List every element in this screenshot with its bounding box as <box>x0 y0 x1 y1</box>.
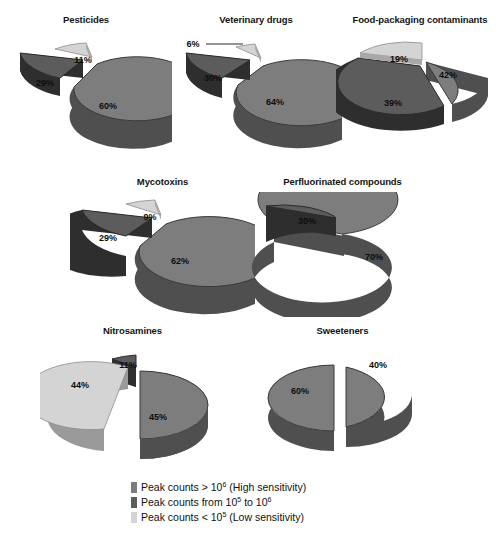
chart-title-sweeteners: Sweeteners <box>250 325 435 336</box>
slice-label-60: 60% <box>99 101 117 111</box>
pie-stage-sweeteners <box>250 341 435 461</box>
pie-svg-perfluorinated <box>250 192 435 317</box>
slice-label-40: 40% <box>369 360 387 370</box>
pie-stage-nitrosamines <box>40 341 225 461</box>
legend-swatch-low-sensitivity <box>131 512 137 523</box>
slice-label-29: 29% <box>99 233 117 243</box>
chart-title-perfluorinated-compounds: Perfluorinated compounds <box>250 176 435 187</box>
slice-high-62 <box>135 217 255 315</box>
slice-high-60 <box>70 57 172 149</box>
slice-high-60 <box>268 365 334 451</box>
pie-stage-mycotoxins <box>70 192 255 312</box>
slice-label-39: 39% <box>384 98 402 108</box>
legend-text-part-2: to 10 <box>241 496 267 508</box>
slice-label-11: 11% <box>119 360 137 370</box>
slice-label-30: 30% <box>298 216 316 226</box>
slice-label-11: 11% <box>74 55 92 65</box>
pie-svg-pesticides <box>0 30 172 150</box>
legend-text-part-2: (High sensitivity) <box>226 481 306 493</box>
legend-label-high-sensitivity: Peak counts > 106 (High sensitivity) <box>141 481 306 494</box>
legend-text-part-1: Peak counts from 10 <box>141 496 237 508</box>
pie-svg-food-packaging <box>336 30 504 150</box>
slice-label-70: 70% <box>365 252 383 262</box>
slice-label-9: 9% <box>143 212 156 222</box>
slice-mid-40 <box>346 367 412 447</box>
chart-title-veterinary-drugs: Veterinary drugs <box>170 14 342 25</box>
pie-stage-perfluorinated-compounds <box>250 192 435 312</box>
legend-item-low-sensitivity: Peak counts < 105 (Low sensitivity) <box>131 511 381 525</box>
pie-stage-food-packaging-contaminants <box>336 30 504 150</box>
chart-row-2: Mycotoxins <box>0 176 504 321</box>
slice-label-64: 64% <box>266 97 284 107</box>
chart-title-nitrosamines: Nitrosamines <box>40 325 225 336</box>
slice-label-6: 6% <box>186 39 199 49</box>
slice-label-19: 19% <box>390 54 408 64</box>
slice-label-62: 62% <box>171 256 189 266</box>
chart-row-3: Nitrosamines <box>0 325 504 465</box>
legend-label-mid-sensitivity: Peak counts from 105 to 106 <box>141 496 271 509</box>
pie-svg-mycotoxins <box>70 192 255 317</box>
legend-exponent-2: 6 <box>268 496 272 503</box>
slice-label-29: 29% <box>36 78 54 88</box>
legend-swatch-mid-sensitivity <box>131 497 137 508</box>
chart-title-mycotoxins: Mycotoxins <box>70 176 255 187</box>
legend-text-part-1: Peak counts < 10 <box>141 511 222 523</box>
chart-title-food-packaging-contaminants: Food-packaging contaminants <box>336 14 504 25</box>
chart-title-pesticides: Pesticides <box>0 14 172 25</box>
pie-stage-pesticides <box>0 30 172 150</box>
legend-item-high-sensitivity: Peak counts > 106 (High sensitivity) <box>131 481 381 495</box>
slice-low-44 <box>40 362 128 451</box>
pie-chart-figure: Pesticides <box>0 0 504 559</box>
slice-label-30: 30% <box>204 73 222 83</box>
legend-item-mid-sensitivity: Peak counts from 105 to 106 <box>131 496 381 510</box>
chart-row-1: Pesticides <box>0 14 504 174</box>
legend-text-part-2: (Low sensitivity) <box>226 511 304 523</box>
slice-label-45: 45% <box>149 412 167 422</box>
pie-svg-sweeteners <box>250 341 435 466</box>
slice-label-42: 42% <box>439 70 457 80</box>
slice-label-60: 60% <box>291 386 309 396</box>
legend-swatch-high-sensitivity <box>131 482 137 493</box>
slice-label-44: 44% <box>71 380 89 390</box>
legend-text-part-1: Peak counts > 10 <box>141 481 222 493</box>
legend-label-low-sensitivity: Peak counts < 105 (Low sensitivity) <box>141 511 304 524</box>
legend: Peak counts > 106 (High sensitivity) Pea… <box>131 481 381 526</box>
